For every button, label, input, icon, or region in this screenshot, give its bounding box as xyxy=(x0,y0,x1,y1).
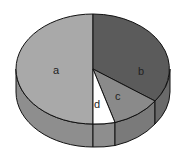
pie-chart-3d: a b c d xyxy=(0,0,180,156)
pie-top xyxy=(16,14,169,124)
slice-b-label: b xyxy=(138,65,144,77)
slice-c-label: c xyxy=(115,90,121,102)
slice-d-side xyxy=(93,123,115,148)
slice-a-label: a xyxy=(53,64,60,76)
slice-d-label: d xyxy=(94,98,100,110)
